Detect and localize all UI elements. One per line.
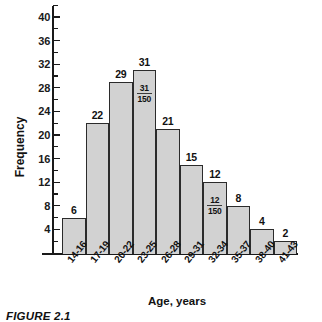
figure-container: Frequency Age, years 481216202428323640 … bbox=[0, 0, 322, 322]
y-tick-major bbox=[53, 182, 60, 183]
y-tick-label: 12 bbox=[22, 176, 50, 188]
y-tick-minor bbox=[53, 75, 58, 76]
y-tick-label-wrap: 24 bbox=[16, 105, 50, 117]
bar-value-label: 31 bbox=[129, 56, 161, 68]
y-tick-label-wrap: 8 bbox=[16, 200, 50, 212]
histogram-plot: Frequency Age, years 481216202428323640 … bbox=[0, 0, 322, 322]
fraction-denominator: 150 bbox=[201, 207, 229, 216]
y-tick-label: 20 bbox=[22, 129, 50, 141]
y-tick-label: 32 bbox=[22, 58, 50, 70]
y-tick-label: 24 bbox=[22, 105, 50, 117]
y-tick-label-wrap: 40 bbox=[16, 11, 50, 23]
y-tick-label-wrap: 20 bbox=[16, 129, 50, 141]
y-tick-major bbox=[53, 40, 60, 41]
y-tick-minor bbox=[53, 170, 58, 171]
y-tick-minor bbox=[53, 28, 58, 29]
bar-value-label: 4 bbox=[246, 215, 278, 227]
y-tick-minor bbox=[53, 5, 58, 6]
y-tick-major bbox=[53, 158, 60, 159]
y-tick-label: 36 bbox=[22, 35, 50, 47]
y-tick-label: 40 bbox=[22, 11, 50, 23]
y-tick-label: 16 bbox=[22, 153, 50, 165]
y-tick-label: 4 bbox=[22, 223, 50, 235]
y-tick-label: 8 bbox=[22, 200, 50, 212]
y-tick-major bbox=[53, 111, 60, 112]
y-tick-minor bbox=[53, 146, 58, 147]
bar-value-label: 21 bbox=[152, 115, 184, 127]
y-tick-major bbox=[53, 87, 60, 88]
y-tick-label-wrap: 28 bbox=[16, 82, 50, 94]
y-tick-label-wrap: 32 bbox=[16, 58, 50, 70]
x-axis-title: Age, years bbox=[52, 295, 302, 307]
y-tick-minor bbox=[53, 52, 58, 53]
bar-value-label: 12 bbox=[199, 168, 231, 180]
y-tick-label-wrap: 36 bbox=[16, 35, 50, 47]
y-tick-major bbox=[53, 64, 60, 65]
y-tick-major bbox=[53, 16, 60, 17]
y-tick-minor bbox=[53, 193, 58, 194]
y-tick-major bbox=[53, 229, 60, 230]
y-tick-label: 28 bbox=[22, 82, 50, 94]
y-tick-minor bbox=[53, 241, 58, 242]
fraction-numerator: 31 bbox=[131, 84, 159, 93]
bar-relative-frequency-label: 31150 bbox=[131, 84, 159, 103]
bar-value-label: 15 bbox=[176, 151, 208, 163]
y-tick-major bbox=[53, 134, 60, 135]
y-tick-label-wrap: 16 bbox=[16, 153, 50, 165]
figure-caption: FIGURE 2.1 bbox=[6, 310, 71, 322]
bar-value-label: 8 bbox=[223, 192, 255, 204]
y-tick-minor bbox=[53, 123, 58, 124]
fraction-denominator: 150 bbox=[131, 95, 159, 104]
y-tick-minor bbox=[53, 99, 58, 100]
y-tick-label-wrap: 4 bbox=[16, 223, 50, 235]
y-tick-minor bbox=[53, 217, 58, 218]
y-tick-label-wrap: 12 bbox=[16, 176, 50, 188]
